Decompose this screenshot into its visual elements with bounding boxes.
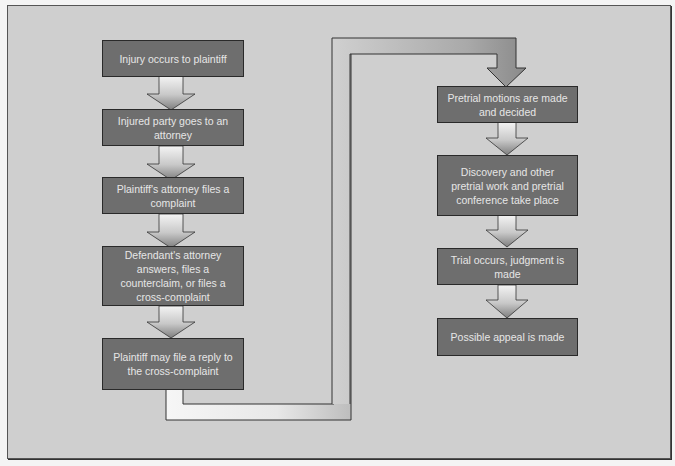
arrow-down-icon	[147, 306, 195, 338]
flow-step-pretrial-motions: Pretrial motions are made and decided	[437, 86, 578, 123]
flow-step-reply: Plaintiff may file a reply to the cross-…	[102, 338, 244, 390]
arrow-down-icon	[486, 122, 528, 155]
flow-step-complaint: Plaintiff's attorney files a complaint	[102, 177, 244, 214]
flow-step-appeal: Possible appeal is made	[437, 318, 578, 356]
arrow-down-icon	[486, 285, 528, 318]
flow-step-discovery: Discovery and other pretrial work and pr…	[437, 155, 578, 216]
arrow-down-icon	[486, 215, 528, 247]
flow-step-trial: Trial occurs, judgment is made	[437, 248, 578, 285]
arrow-down-icon	[147, 214, 195, 248]
flow-step-attorney: Injured party goes to an attorney	[102, 109, 244, 146]
flow-step-injury: Injury occurs to plaintiff	[102, 40, 244, 77]
arrow-down-icon	[147, 76, 195, 110]
flow-step-defendant-answer: Defendant's attorney answers, files a co…	[102, 246, 244, 306]
arrow-down-icon	[147, 146, 195, 180]
